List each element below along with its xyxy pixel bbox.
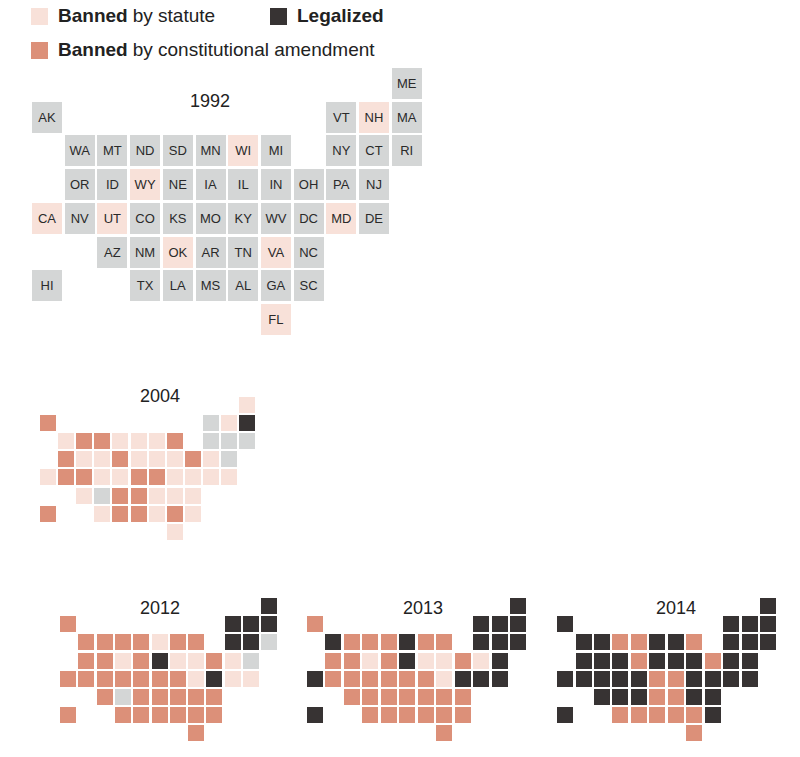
state-tile-nh: NH bbox=[359, 102, 389, 133]
state-tile-ak bbox=[557, 616, 573, 632]
state-tile-nm bbox=[94, 488, 110, 504]
state-tile-nm bbox=[115, 689, 131, 705]
state-tile-ne bbox=[631, 653, 647, 669]
state-label: DE bbox=[365, 211, 383, 226]
state-tile-pa: PA bbox=[326, 169, 356, 200]
state-tile-ct bbox=[742, 634, 758, 650]
state-tile-wi bbox=[418, 634, 434, 650]
state-label: WY bbox=[135, 177, 156, 192]
legend-bold: Legalized bbox=[297, 5, 384, 27]
state-tile-nc bbox=[185, 488, 201, 504]
state-tile-md bbox=[473, 671, 489, 687]
state-label: GA bbox=[266, 278, 285, 293]
state-tile-va bbox=[436, 689, 452, 705]
state-label: NY bbox=[332, 143, 350, 158]
state-tile-ga bbox=[167, 506, 183, 522]
state-tile-ia bbox=[152, 653, 168, 669]
state-tile-sc: SC bbox=[294, 270, 324, 301]
state-tile-tn bbox=[170, 689, 186, 705]
state-tile-or bbox=[58, 451, 74, 467]
state-tile-wa: WA bbox=[65, 135, 95, 166]
state-label: OR bbox=[70, 177, 90, 192]
legend-bold: Banned bbox=[58, 5, 128, 27]
state-tile-nm bbox=[612, 689, 628, 705]
statute-swatch bbox=[31, 8, 48, 25]
state-tile-ut bbox=[76, 469, 92, 485]
state-label: KY bbox=[235, 211, 252, 226]
state-tile-or bbox=[325, 653, 341, 669]
state-label: ME bbox=[397, 76, 417, 91]
state-tile-in: IN bbox=[261, 169, 291, 200]
state-tile-ia bbox=[649, 653, 665, 669]
state-tile-md bbox=[203, 469, 219, 485]
state-tile-mo bbox=[649, 671, 665, 687]
state-tile-hi bbox=[307, 707, 323, 723]
state-label: HI bbox=[41, 278, 54, 293]
state-tile-ga bbox=[436, 707, 452, 723]
state-tile-ut: UT bbox=[97, 203, 127, 234]
state-tile-tx bbox=[362, 707, 378, 723]
state-tile-ga bbox=[188, 707, 204, 723]
state-label: NH bbox=[365, 110, 384, 125]
state-tile-ga bbox=[686, 707, 702, 723]
state-label: OH bbox=[299, 177, 319, 192]
state-tile-wa bbox=[78, 634, 94, 650]
state-label: AL bbox=[235, 278, 251, 293]
state-tile-ia bbox=[131, 451, 147, 467]
state-tile-nj bbox=[221, 451, 237, 467]
map-title-2012: 2012 bbox=[140, 598, 180, 619]
state-tile-al bbox=[149, 506, 165, 522]
state-tile-mn: MN bbox=[196, 135, 226, 166]
state-label: RI bbox=[400, 143, 413, 158]
state-tile-ms bbox=[649, 707, 665, 723]
state-tile-ct: CT bbox=[359, 135, 389, 166]
state-tile-tn: TN bbox=[228, 237, 258, 268]
state-tile-ky bbox=[149, 469, 165, 485]
state-tile-tx bbox=[94, 506, 110, 522]
state-tile-mo bbox=[131, 469, 147, 485]
state-tile-il bbox=[170, 653, 186, 669]
state-tile-ak: AK bbox=[32, 102, 62, 133]
state-tile-wy: WY bbox=[130, 169, 160, 200]
state-tile-nm: NM bbox=[130, 237, 160, 268]
state-tile-pa bbox=[473, 653, 489, 669]
state-tile-az bbox=[594, 689, 610, 705]
state-tile-nj bbox=[243, 653, 259, 669]
legend-text: by statute bbox=[133, 5, 215, 27]
state-tile-wy bbox=[612, 653, 628, 669]
state-label: ND bbox=[136, 143, 155, 158]
state-tile-de: DE bbox=[359, 203, 389, 234]
state-tile-me: ME bbox=[392, 68, 422, 99]
state-tile-hi bbox=[40, 506, 56, 522]
state-tile-la bbox=[112, 506, 128, 522]
state-tile-dc bbox=[206, 671, 222, 687]
state-tile-nv bbox=[325, 671, 341, 687]
state-label: TN bbox=[235, 245, 252, 260]
state-tile-ar bbox=[152, 689, 168, 705]
state-label: VA bbox=[268, 245, 284, 260]
state-tile-nj bbox=[742, 653, 758, 669]
state-tile-vt: VT bbox=[326, 102, 356, 133]
state-tile-al bbox=[418, 707, 434, 723]
legend-text: by constitutional amendment bbox=[133, 39, 375, 61]
state-tile-ms bbox=[399, 707, 415, 723]
state-tile-in bbox=[686, 653, 702, 669]
state-tile-dc: DC bbox=[294, 203, 324, 234]
state-tile-va: VA bbox=[261, 237, 291, 268]
state-tile-fl bbox=[686, 725, 702, 741]
state-tile-ms bbox=[152, 707, 168, 723]
state-tile-mt bbox=[76, 433, 92, 449]
state-tile-md bbox=[723, 671, 739, 687]
state-tile-mt bbox=[344, 634, 360, 650]
state-tile-md: MD bbox=[326, 203, 356, 234]
state-tile-co: CO bbox=[130, 203, 160, 234]
state-tile-sd bbox=[133, 634, 149, 650]
state-tile-il bbox=[668, 653, 684, 669]
state-tile-wi bbox=[149, 433, 165, 449]
state-tile-me bbox=[510, 598, 526, 614]
state-label: MS bbox=[201, 278, 221, 293]
state-tile-mn bbox=[649, 634, 665, 650]
map-title-2004: 2004 bbox=[140, 386, 180, 407]
state-tile-ma bbox=[261, 616, 277, 632]
state-tile-de bbox=[243, 671, 259, 687]
